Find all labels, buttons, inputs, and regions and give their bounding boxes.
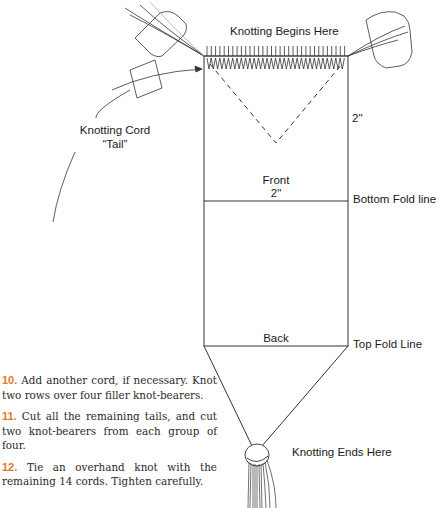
right-taper-line xyxy=(262,346,348,446)
knotting-cord-label: Knotting Cord xyxy=(60,124,170,136)
front-measure-label: 2" xyxy=(204,187,348,199)
step-11: 11. Cut all the remaining tails, and cut… xyxy=(2,409,217,453)
side-measure-label: 2" xyxy=(352,112,362,124)
back-label: Back xyxy=(204,332,348,344)
knot-row-icon xyxy=(204,46,348,69)
instruction-steps: 10. Add another cord, if necessary. Knot… xyxy=(2,373,217,496)
top-fold-label: Top Fold Line xyxy=(353,338,422,350)
cord-bundle-top-right-icon xyxy=(348,12,412,68)
tail-label: “Tail” xyxy=(60,138,170,150)
cord-bundle-top-left-icon xyxy=(125,2,204,57)
step-12: 12. Tie an overhand knot with the remain… xyxy=(2,460,217,489)
dashed-v-guide xyxy=(210,64,342,143)
knotting-begins-label: Knotting Begins Here xyxy=(230,25,339,37)
bottom-fold-label: Bottom Fold line xyxy=(353,193,436,205)
step-10: 10. Add another cord, if necessary. Knot… xyxy=(2,373,217,402)
front-label: Front xyxy=(204,174,348,186)
tassel-cords-icon xyxy=(248,460,276,508)
knotting-ends-label: Knotting Ends Here xyxy=(292,446,392,458)
